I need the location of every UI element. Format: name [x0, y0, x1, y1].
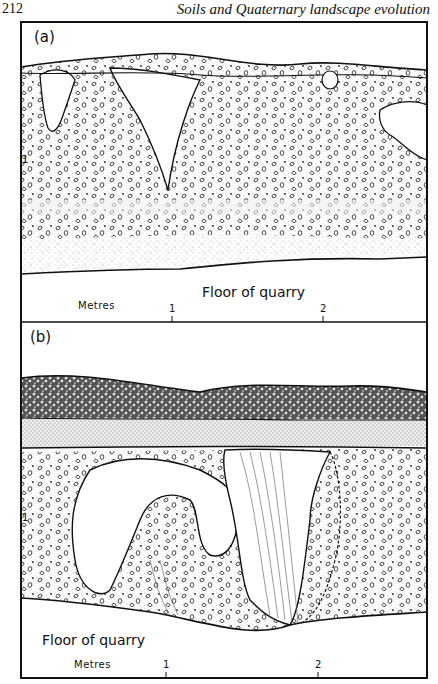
- panel-b-scale-tick-2: 2: [315, 659, 321, 670]
- panel-a-scale-tick-1: 1: [169, 303, 175, 314]
- panel-a-floor-label: Floor of quarry: [202, 284, 305, 300]
- panel-b-depth-marker-1: 1: [22, 512, 28, 523]
- panel-b: [21, 376, 427, 631]
- panel-b-depth-marker-2: 2: [25, 365, 31, 376]
- panel-b-floor-label: Floor of quarry: [42, 632, 145, 648]
- panel-a-depth-marker: 1: [22, 154, 28, 165]
- panel-a-scale-unit: Metres: [78, 300, 115, 311]
- panel-b-scale-unit: Metres: [74, 659, 111, 670]
- panel-a: [21, 32, 427, 274]
- panel-a-scale-tick-2: 2: [320, 303, 326, 314]
- geological-section-figure: [0, 0, 438, 684]
- panel-b-scale-tick-1: 1: [163, 659, 169, 670]
- panel-b-label: (b): [30, 328, 51, 346]
- panel-a-label: (a): [34, 28, 55, 46]
